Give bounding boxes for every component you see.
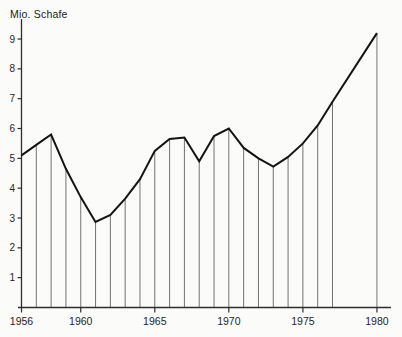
y-tick-label-8: 8 <box>9 63 15 74</box>
y-tick-label-2: 2 <box>9 242 15 253</box>
y-tick-label-5: 5 <box>9 153 15 164</box>
y-tick-label-3: 3 <box>9 213 15 224</box>
x-tick-label-1956: 1956 <box>10 315 34 327</box>
x-tick-label-1970: 1970 <box>217 315 241 327</box>
y-tick-label-6: 6 <box>9 123 15 134</box>
y-tick-label-4: 4 <box>9 183 15 194</box>
x-tick-label-1980: 1980 <box>365 315 389 327</box>
y-tick-label-7: 7 <box>9 93 15 104</box>
x-tick-label-1965: 1965 <box>143 315 167 327</box>
sheep-population-chart: Mio. Schafe 1234567891956196019651970197… <box>0 0 402 337</box>
x-tick-label-1960: 1960 <box>69 315 93 327</box>
y-tick-label-1: 1 <box>9 272 15 283</box>
y-tick-label-9: 9 <box>9 34 15 45</box>
x-tick-label-1975: 1975 <box>291 315 315 327</box>
sheep-line-chart-canvas: 123456789195619601965197019751980 <box>0 0 402 337</box>
